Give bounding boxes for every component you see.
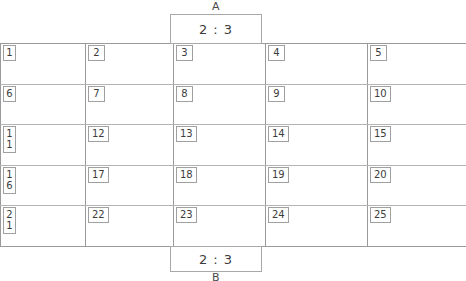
grid-cell[interactable]: 15 — [367, 125, 466, 165]
cell-id-tag: 25 — [370, 207, 391, 223]
grid-cell[interactable]: 24 — [265, 206, 367, 247]
grid-cell[interactable]: 18 — [173, 166, 265, 206]
grid-cell[interactable]: 16 — [0, 166, 85, 206]
cell-id-tag: 20 — [370, 167, 391, 183]
cell-id-tag: 14 — [268, 126, 289, 142]
table-row: 21 22 23 24 25 — [0, 206, 466, 247]
cell-id-tag: 5 — [370, 45, 387, 61]
cell-id-tag: 21 — [3, 207, 16, 234]
grid-cell[interactable]: 11 — [0, 125, 85, 165]
table-row: 1 2 3 4 5 — [0, 44, 466, 85]
cell-id-tag: 6 — [3, 86, 16, 102]
grid-cell[interactable]: 22 — [85, 206, 173, 247]
grid-cell[interactable]: 17 — [85, 166, 173, 206]
cell-id-tag: 19 — [268, 167, 289, 183]
grid-cell[interactable]: 10 — [367, 85, 466, 125]
grid-cell[interactable]: 14 — [265, 125, 367, 165]
diagram-canvas: A 2 : 3 1 2 3 4 5 6 7 — [0, 0, 466, 281]
cell-id-tag: 13 — [176, 126, 197, 142]
cell-id-tag: 22 — [88, 207, 109, 223]
cell-id-tag: 7 — [88, 86, 105, 102]
terminal-box-a[interactable]: 2 : 3 — [170, 14, 262, 44]
grid-cell[interactable]: 1 — [0, 44, 85, 84]
grid-cell[interactable]: 19 — [265, 166, 367, 206]
cell-id-tag: 3 — [176, 45, 193, 61]
grid-cell[interactable]: 6 — [0, 85, 85, 125]
cell-id-tag: 23 — [176, 207, 197, 223]
terminal-box-b[interactable]: 2 : 3 — [170, 246, 262, 272]
cell-id-tag: 1 — [3, 45, 16, 61]
grid-cell[interactable]: 21 — [0, 206, 85, 247]
grid-cell[interactable]: 25 — [367, 206, 466, 247]
cell-id-tag: 18 — [176, 167, 197, 183]
table-row: 16 17 18 19 20 — [0, 166, 466, 207]
grid-cell[interactable]: 5 — [367, 44, 466, 84]
grid-cell[interactable]: 20 — [367, 166, 466, 206]
grid-cell[interactable]: 3 — [173, 44, 265, 84]
grid-cell[interactable]: 12 — [85, 125, 173, 165]
cell-id-tag: 9 — [268, 86, 285, 102]
terminal-box-b-value: 2 : 3 — [199, 252, 233, 267]
cell-id-tag: 11 — [3, 126, 16, 153]
grid-cell[interactable]: 8 — [173, 85, 265, 125]
table-row: 11 12 13 14 15 — [0, 125, 466, 166]
cell-id-tag: 4 — [268, 45, 285, 61]
cell-id-tag: 17 — [88, 167, 109, 183]
grid-cell[interactable]: 2 — [85, 44, 173, 84]
table-row: 6 7 8 9 10 — [0, 85, 466, 126]
cell-id-tag: 12 — [88, 126, 109, 142]
grid-cell[interactable]: 4 — [265, 44, 367, 84]
grid-cell[interactable]: 23 — [173, 206, 265, 247]
terminal-label-b: B — [170, 272, 262, 281]
cell-id-tag: 24 — [268, 207, 289, 223]
grid-cell[interactable]: 13 — [173, 125, 265, 165]
terminal-box-a-value: 2 : 3 — [199, 22, 233, 37]
cell-id-tag: 15 — [370, 126, 391, 142]
grid-cell[interactable]: 7 — [85, 85, 173, 125]
cell-id-tag: 10 — [370, 86, 391, 102]
cell-id-tag: 8 — [176, 86, 193, 102]
cell-grid: 1 2 3 4 5 6 7 8 — [0, 43, 466, 247]
cell-id-tag: 2 — [88, 45, 105, 61]
cell-id-tag: 16 — [3, 167, 16, 194]
terminal-label-a: A — [170, 1, 262, 13]
grid-cell[interactable]: 9 — [265, 85, 367, 125]
